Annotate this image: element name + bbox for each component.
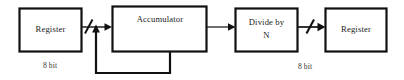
- block-diagram: Register Accumulator Divide by N: [0, 0, 404, 80]
- block-output-register: Register: [326, 9, 387, 52]
- wire-divider-to-register: [298, 20, 326, 34]
- block-output-register-label: Register: [341, 24, 371, 34]
- block-divide-by-n-label-line1: Divide by: [249, 17, 285, 27]
- arrowhead-into-accumulator-icon: [105, 23, 113, 31]
- arrowhead-into-divider-icon: [228, 23, 236, 31]
- label-left-bus-width: 8 bit: [43, 61, 58, 70]
- block-accumulator-label: Accumulator: [137, 14, 184, 24]
- block-accumulator: Accumulator: [113, 7, 207, 52]
- label-right-bus-width: 8 bit: [298, 62, 313, 71]
- block-input-register-label: Register: [36, 24, 66, 34]
- wire-accumulator-to-divider: [207, 23, 236, 31]
- block-divide-by-n: Divide by N: [236, 9, 298, 52]
- arrowhead-feedback-into-input-node-icon: [92, 25, 100, 33]
- arrowhead-into-output-register-icon: [318, 23, 326, 31]
- block-divide-by-n-label-line2: N: [263, 30, 270, 40]
- diagram-canvas: Register Accumulator Divide by N: [0, 0, 404, 80]
- block-input-register: Register: [20, 9, 82, 52]
